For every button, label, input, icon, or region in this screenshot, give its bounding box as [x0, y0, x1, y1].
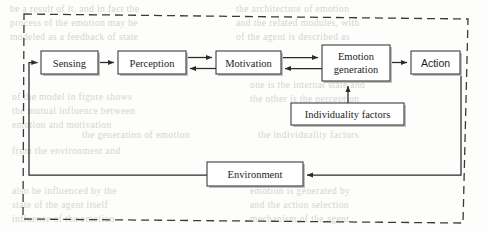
node-layer: Sensing Perception Motivation Emotion ge…: [41, 45, 462, 188]
edge-environment-to-sensing: [29, 63, 207, 176]
emotion-architecture-diagram: Sensing Perception Motivation Emotion ge…: [0, 0, 487, 232]
node-sensing-label: Sensing: [53, 58, 87, 69]
node-emotion-generation-label-line2: generation: [334, 64, 379, 75]
node-action[interactable]: Action: [411, 51, 462, 76]
node-motivation-label: Motivation: [225, 58, 272, 69]
figure-canvas: be a result of it, and in fact theproces…: [0, 0, 487, 232]
node-environment-label: Environment: [228, 169, 283, 180]
node-individuality-factors-label: Individuality factors: [305, 109, 390, 120]
node-perception[interactable]: Perception: [118, 51, 188, 76]
node-motivation[interactable]: Motivation: [216, 51, 283, 76]
node-sensing[interactable]: Sensing: [41, 51, 100, 76]
node-action-label: Action: [421, 57, 450, 69]
node-emotion-generation[interactable]: Emotion generation: [322, 45, 392, 83]
node-environment[interactable]: Environment: [207, 162, 305, 188]
node-individuality-factors[interactable]: Individuality factors: [291, 103, 406, 127]
node-emotion-generation-label-line1: Emotion: [338, 51, 375, 62]
node-perception-label: Perception: [130, 58, 176, 69]
